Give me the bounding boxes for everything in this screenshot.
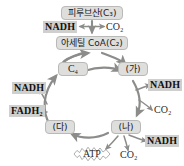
node-pyruvate: 피루브산(C₃) (61, 6, 123, 20)
node-c4-label: C₄ (68, 64, 78, 74)
node-c4: C₄ (58, 62, 88, 76)
label-co2-right: CO₂ (154, 105, 171, 115)
label-co2-top: CO₂ (106, 22, 123, 32)
node-acetyl-coa: 아세틸 CoA(C₂) (56, 36, 128, 50)
node-da: (다) (45, 120, 75, 134)
node-na-label: (나) (118, 123, 133, 132)
tca-cycle-diagram: 피루브산(C₃) 아세틸 CoA(C₂) C₄ (가) (나) (다) NADH… (0, 0, 184, 166)
node-ga: (가) (118, 62, 148, 76)
label-co2-bottom: CO₂ (120, 150, 137, 160)
node-acetyl-coa-label: 아세틸 CoA(C₂) (61, 39, 123, 48)
label-fadh2: FADH₂ (9, 105, 45, 117)
label-nadh-bottom-right-text: NADH (147, 135, 177, 146)
label-nadh-left-upper-text: NADH (14, 82, 44, 93)
label-nadh-right-upper: NADH (148, 79, 182, 91)
label-co2-right-text: CO₂ (154, 104, 171, 115)
node-ga-label: (가) (125, 65, 140, 74)
label-nadh-top-text: NADH (45, 21, 75, 32)
label-fadh2-text: FADH₂ (11, 105, 43, 116)
label-nadh-right-upper-text: NADH (150, 79, 180, 90)
label-nadh-left-upper: NADH (12, 82, 46, 94)
label-atp-text: ATP (83, 149, 101, 159)
label-nadh-top: NADH (43, 21, 77, 33)
node-da-label: (다) (52, 123, 67, 132)
label-atp: ATP (72, 145, 112, 163)
node-na: (나) (111, 120, 141, 134)
node-pyruvate-label: 피루브산(C₃) (68, 9, 117, 18)
label-co2-top-text: CO₂ (106, 21, 123, 32)
label-co2-bottom-text: CO₂ (120, 149, 137, 160)
label-nadh-bottom-right: NADH (145, 135, 179, 147)
